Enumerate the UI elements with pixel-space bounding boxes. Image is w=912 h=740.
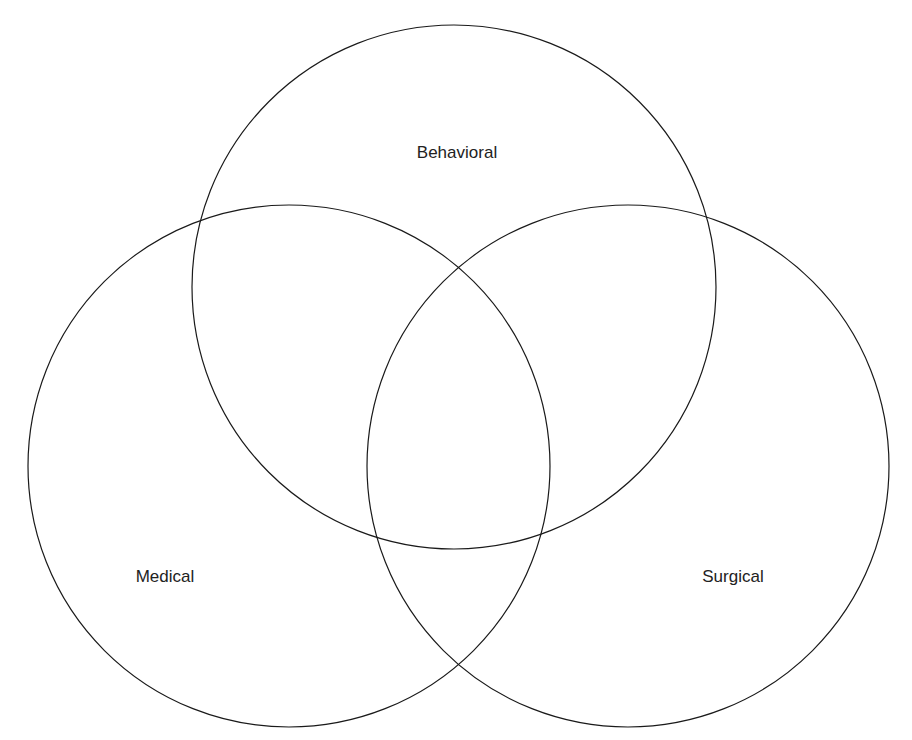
venn-diagram: Behavioral Medical Surgical	[0, 0, 912, 740]
surgical-label: Surgical	[702, 567, 763, 586]
behavioral-label: Behavioral	[417, 143, 497, 162]
medical-circle	[28, 205, 550, 727]
medical-label: Medical	[136, 567, 195, 586]
behavioral-circle	[192, 25, 716, 549]
surgical-circle	[367, 205, 889, 727]
